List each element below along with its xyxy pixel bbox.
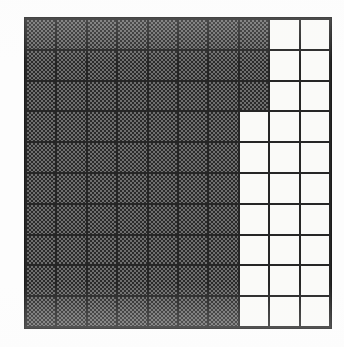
grid-cell-shaded — [240, 51, 268, 80]
grid-cell-unshaded — [301, 297, 329, 326]
grid-cell-shaded — [88, 205, 116, 234]
grid-cell-unshaded — [301, 205, 329, 234]
grid-cell-shaded — [57, 174, 85, 203]
grid-cell-shaded — [27, 205, 55, 234]
grid-cell-unshaded — [301, 266, 329, 295]
grid-cell-shaded — [118, 205, 146, 234]
grid-cell-unshaded — [270, 266, 298, 295]
grid-cell-shaded — [149, 51, 177, 80]
grid-cell-shaded — [118, 82, 146, 111]
hundred-square-grid — [24, 17, 332, 329]
grid-cell-unshaded — [270, 112, 298, 141]
grid-cell-shaded — [179, 82, 207, 111]
grid-cell-shaded — [118, 266, 146, 295]
grid-cell-shaded — [179, 205, 207, 234]
grid-cell-shaded — [209, 205, 237, 234]
grid-cell-shaded — [57, 112, 85, 141]
grid-cell-shaded — [88, 143, 116, 172]
grid-cell-shaded — [149, 266, 177, 295]
grid-cell-shaded — [209, 236, 237, 265]
grid-cell-unshaded — [270, 236, 298, 265]
grid-cell-shaded — [149, 297, 177, 326]
grid-cell-shaded — [118, 297, 146, 326]
grid-cell-shaded — [149, 82, 177, 111]
grid-cell-unshaded — [270, 174, 298, 203]
grid-cell-shaded — [118, 236, 146, 265]
grid-cell-unshaded — [301, 236, 329, 265]
grid-cell-shaded — [179, 266, 207, 295]
grid-cell-unshaded — [240, 297, 268, 326]
grid-cell-shaded — [240, 20, 268, 49]
grid-cell-shaded — [209, 174, 237, 203]
grid-cell-shaded — [179, 143, 207, 172]
grid-cell-unshaded — [301, 82, 329, 111]
grid-cell-shaded — [240, 82, 268, 111]
grid-cell-shaded — [209, 297, 237, 326]
grid-cell-unshaded — [270, 20, 298, 49]
grid-cell-shaded — [88, 297, 116, 326]
grid-cell-shaded — [179, 20, 207, 49]
grid-cell-shaded — [149, 112, 177, 141]
grid-cell-shaded — [27, 143, 55, 172]
grid-cell-shaded — [57, 297, 85, 326]
grid-cell-shaded — [27, 236, 55, 265]
grid-cell-shaded — [209, 266, 237, 295]
grid-cell-shaded — [57, 143, 85, 172]
grid-cell-unshaded — [270, 82, 298, 111]
grid-cell-shaded — [179, 112, 207, 141]
grid-cell-shaded — [209, 51, 237, 80]
grid-cell-shaded — [149, 20, 177, 49]
grid-cell-shaded — [88, 20, 116, 49]
grid-cell-shaded — [118, 112, 146, 141]
grid-cell-shaded — [88, 112, 116, 141]
grid-cell-shaded — [118, 51, 146, 80]
grid-cell-shaded — [118, 174, 146, 203]
grid-cell-unshaded — [240, 205, 268, 234]
grid-cell-unshaded — [240, 174, 268, 203]
grid-cell-shaded — [57, 236, 85, 265]
grid-cell-unshaded — [240, 266, 268, 295]
grid-cell-shaded — [179, 51, 207, 80]
grid-cell-shaded — [27, 174, 55, 203]
grid-cell-shaded — [27, 82, 55, 111]
grid-cell-unshaded — [240, 143, 268, 172]
grid-cell-shaded — [179, 174, 207, 203]
grid-cell-shaded — [209, 143, 237, 172]
grid-cell-shaded — [179, 236, 207, 265]
grid-cell-shaded — [118, 143, 146, 172]
grid-cell-shaded — [149, 143, 177, 172]
grid-cell-shaded — [57, 20, 85, 49]
grid-cell-shaded — [118, 20, 146, 49]
grid-cell-shaded — [27, 20, 55, 49]
grid-cell-shaded — [57, 51, 85, 80]
grid-cell-shaded — [149, 205, 177, 234]
grid-cell-shaded — [88, 236, 116, 265]
grid-cell-unshaded — [301, 20, 329, 49]
grid-cell-shaded — [57, 82, 85, 111]
grid-cell-shaded — [88, 82, 116, 111]
grid-cell-unshaded — [270, 143, 298, 172]
grid-cell-unshaded — [301, 51, 329, 80]
grid-cell-shaded — [149, 236, 177, 265]
grid-cell-shaded — [209, 112, 237, 141]
grid-cell-shaded — [27, 51, 55, 80]
grid-cell-shaded — [27, 266, 55, 295]
shaded-grid-figure — [0, 0, 344, 347]
grid-cell-unshaded — [301, 143, 329, 172]
grid-cell-shaded — [149, 174, 177, 203]
grid-cell-unshaded — [301, 112, 329, 141]
grid-cell-shaded — [27, 297, 55, 326]
grid-cell-shaded — [209, 20, 237, 49]
grid-cell-shaded — [27, 112, 55, 141]
grid-cell-shaded — [57, 205, 85, 234]
grid-cell-shaded — [57, 266, 85, 295]
grid-cell-shaded — [179, 297, 207, 326]
grid-cell-shaded — [88, 51, 116, 80]
grid-cell-unshaded — [270, 51, 298, 80]
grid-cell-unshaded — [240, 112, 268, 141]
grid-cell-unshaded — [301, 174, 329, 203]
grid-cell-shaded — [88, 266, 116, 295]
grid-cell-unshaded — [270, 205, 298, 234]
grid-cell-unshaded — [240, 236, 268, 265]
grid-cell-shaded — [209, 82, 237, 111]
